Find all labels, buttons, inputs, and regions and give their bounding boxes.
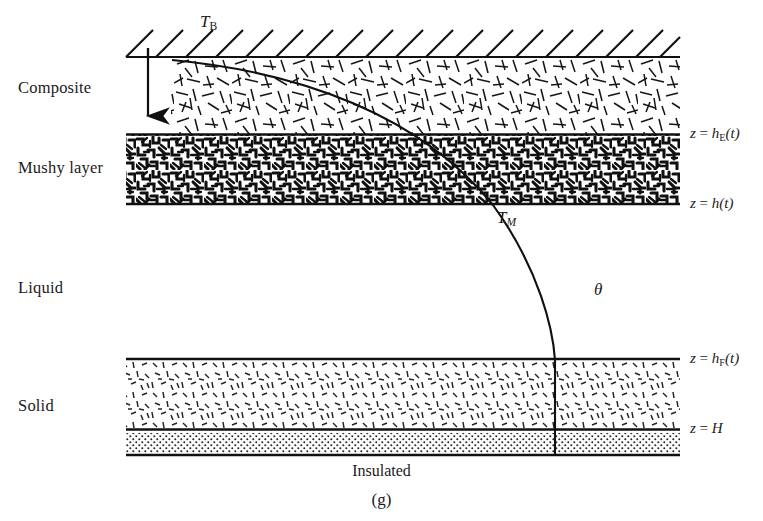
interface-label-hF-z: z [690, 350, 696, 366]
figure-container: Composite Mushy layer Liquid Solid z = h… [0, 0, 763, 521]
diagram-canvas [0, 0, 763, 521]
insulated-label: Insulated [0, 462, 763, 480]
layer-label-mushy: Mushy layer [18, 158, 103, 178]
interface-label-hE: z = hE(t) [690, 125, 740, 143]
top-temperature-label: TB [200, 12, 217, 33]
interface-label-hF: z = hF(t) [690, 350, 739, 368]
mush-temperature-label: TM [497, 208, 516, 229]
interface-label-H-eq: = [700, 420, 708, 436]
interface-label-hF-eq: = [700, 350, 708, 366]
interface-label-H-z: z [690, 420, 696, 436]
interface-label-hE-eq: = [700, 125, 708, 141]
top-wall-hatching [126, 30, 680, 57]
mushy-layer-region [126, 135, 680, 203]
composite-left-gap [127, 48, 171, 133]
interface-label-hE-arg: (t) [726, 125, 740, 141]
layer-label-solid: Solid [18, 396, 54, 416]
top-temperature-sub: B [209, 20, 217, 33]
layer-label-composite: Composite [18, 78, 91, 98]
solid-layer-region [126, 360, 680, 428]
interface-label-h-eq: = [700, 195, 708, 211]
layer-label-liquid: Liquid [18, 278, 63, 298]
theta-label: θ [594, 280, 602, 300]
interface-label-h-arg: (t) [719, 195, 733, 211]
mush-temperature-sub: M [506, 216, 516, 229]
interface-label-H-h: H [712, 420, 723, 436]
interface-label-h-z: z [690, 195, 696, 211]
interface-label-hF-arg: (t) [725, 350, 739, 366]
interface-label-H: z = H [690, 420, 723, 438]
composite-layer-region [171, 58, 680, 134]
interface-label-h: z = h(t) [690, 195, 733, 213]
figure-caption: (g) [0, 490, 763, 510]
insulated-band-region [126, 433, 680, 453]
interface-label-hE-z: z [690, 125, 696, 141]
